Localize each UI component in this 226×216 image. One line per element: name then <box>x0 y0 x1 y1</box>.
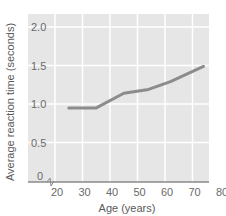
y-tick-label: 1.5 <box>31 60 46 72</box>
x-axis-ticks: 20304050607080 <box>51 186 226 198</box>
x-tick-label: 70 <box>188 186 200 198</box>
x-tick-label: 60 <box>161 186 173 198</box>
line-chart: 00.51.01.52.0 20304050607080 Age (years)… <box>0 0 226 216</box>
x-tick-label: 80 <box>216 186 226 198</box>
y-axis-label: Average reaction time (seconds) <box>4 23 16 181</box>
x-tick-label: 30 <box>78 186 90 198</box>
y-tick-label: 2.0 <box>31 21 46 33</box>
x-tick-label: 20 <box>51 186 63 198</box>
y-tick-label: 1.0 <box>31 98 46 110</box>
x-tick-label: 50 <box>133 186 145 198</box>
x-tick-label: 40 <box>106 186 118 198</box>
y-tick-label: 0.5 <box>31 137 46 149</box>
y-tick-label: 0 <box>37 170 43 182</box>
x-axis-label: Age (years) <box>99 202 156 214</box>
